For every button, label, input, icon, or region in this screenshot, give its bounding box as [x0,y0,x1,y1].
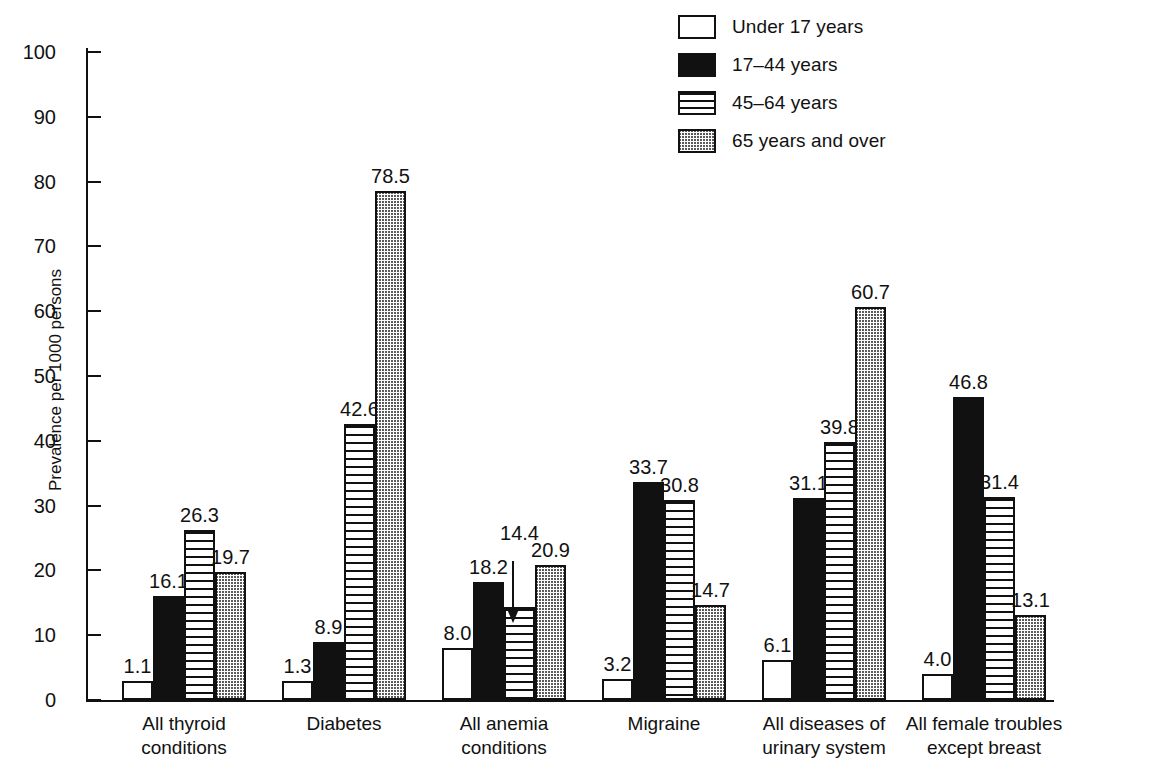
bar [695,605,726,700]
bar [282,681,313,700]
bar-value-label: 31.4 [970,472,1029,492]
bar [922,674,953,700]
y-axis-tick [88,116,101,118]
bar-value-label: 30.8 [650,475,709,495]
y-axis-tick-label: 50 [0,366,56,386]
bar-value-label: 26.3 [170,505,229,525]
bar [153,596,184,700]
y-axis-tick-label: 70 [0,236,56,256]
bar-value-label: 60.7 [841,282,900,302]
y-axis-tick [88,51,101,53]
bar [344,424,375,700]
bar [793,498,824,700]
y-axis-tick-label: 0 [0,690,56,710]
bar [824,442,855,700]
plot-area: Prevalence per 1000 persons 100908070605… [0,0,1150,768]
y-axis-tick-label: 60 [0,301,56,321]
bar [215,572,246,700]
bar [953,397,984,700]
y-axis-tick [88,699,101,701]
prevalence-bar-chart: Under 17 years 17–44 years 45–64 years 6… [0,0,1150,768]
bar-value-label: 78.5 [361,166,420,186]
bar [473,582,504,700]
bar [1015,615,1046,700]
y-axis-tick-label: 100 [0,42,56,62]
bar [855,307,886,700]
x-axis-category-label: All female troubles except breast [884,712,1084,760]
y-axis-tick-label: 80 [0,172,56,192]
bar-value-label: 46.8 [939,372,998,392]
bar [762,660,793,700]
y-axis-tick [88,569,101,571]
y-axis-tick-label: 30 [0,496,56,516]
y-axis-tick-label: 90 [0,107,56,127]
y-axis-tick [88,375,101,377]
bar-value-label: 20.9 [521,540,580,560]
y-axis-tick-label: 40 [0,431,56,451]
y-axis-tick [88,181,101,183]
y-axis-tick [88,505,101,507]
y-axis-tick-label: 10 [0,625,56,645]
y-axis-tick [88,634,101,636]
bar [633,482,664,700]
y-axis-tick [88,440,101,442]
bar-value-label: 14.7 [681,580,740,600]
bar [535,565,566,700]
annotation-arrow-icon [501,561,525,625]
bar [602,679,633,700]
bar-value-label: 13.1 [1001,590,1060,610]
y-axis-tick [88,310,101,312]
bar [442,648,473,700]
x-axis-line [86,700,1054,702]
bar [313,642,344,700]
bar [375,191,406,700]
y-axis-tick [88,245,101,247]
bar-value-label: 19.7 [201,547,260,567]
y-axis-tick-label: 20 [0,560,56,580]
bar [122,681,153,700]
